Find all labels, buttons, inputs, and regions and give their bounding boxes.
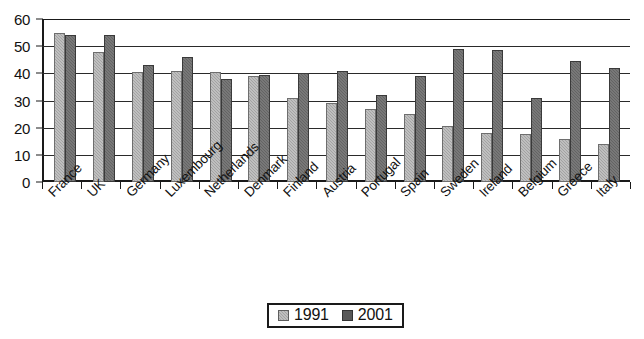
legend-swatch-1991-icon: [278, 310, 289, 321]
bar-groups: [42, 19, 630, 182]
bar-group: [434, 19, 473, 182]
bar[interactable]: [54, 33, 65, 182]
legend-label-2001: 2001: [358, 307, 393, 323]
bar[interactable]: [609, 68, 620, 182]
bar[interactable]: [365, 109, 376, 182]
x-tick-mark: [42, 182, 43, 189]
plot-area: [42, 19, 630, 182]
bar[interactable]: [248, 76, 259, 182]
y-tick-label: 20: [14, 120, 30, 135]
grouped-bar-chart: 0102030405060 FranceUKGermanyLuxembourgN…: [0, 0, 644, 339]
bar[interactable]: [104, 35, 115, 182]
bar[interactable]: [65, 35, 76, 182]
x-axis-labels: FranceUKGermanyLuxembourgNetherlandsDenm…: [42, 190, 642, 285]
bar[interactable]: [210, 72, 221, 182]
y-tick-label: 30: [14, 93, 30, 108]
y-tick-label: 50: [14, 39, 30, 54]
x-tick-mark: [356, 182, 357, 189]
bar-group: [85, 19, 124, 182]
x-tick-mark: [473, 182, 474, 189]
bar-group: [589, 19, 628, 182]
x-tick-mark: [591, 182, 592, 189]
x-tick-mark: [81, 182, 82, 189]
x-tick-mark: [199, 182, 200, 189]
x-tick-mark: [395, 182, 396, 189]
bar-group: [46, 19, 85, 182]
legend-swatch-2001-icon: [342, 310, 353, 321]
x-tick-mark: [316, 182, 317, 189]
bar-group: [473, 19, 512, 182]
x-tick-mark: [552, 182, 553, 189]
legend: 1991 2001: [267, 303, 404, 328]
x-tick-mark: [434, 182, 435, 189]
bar-group: [395, 19, 434, 182]
legend-label-1991: 1991: [294, 307, 329, 323]
y-tick-label: 60: [14, 12, 30, 27]
x-tick-mark: [120, 182, 121, 189]
legend-entry-1991[interactable]: 1991: [278, 307, 329, 323]
bar[interactable]: [132, 72, 143, 182]
x-tick-mark: [512, 182, 513, 189]
x-tick-mark: [238, 182, 239, 189]
bar-group: [318, 19, 357, 182]
y-tick-label: 0: [22, 175, 30, 190]
y-tick-label: 10: [14, 147, 30, 162]
x-tick-mark: [630, 182, 631, 189]
bar-group: [550, 19, 589, 182]
x-tick-mark: [160, 182, 161, 189]
y-tick-label: 40: [14, 66, 30, 81]
bar[interactable]: [326, 103, 337, 182]
bar[interactable]: [93, 52, 104, 182]
bar-group: [512, 19, 551, 182]
y-axis: 0102030405060: [0, 19, 38, 182]
legend-entry-2001[interactable]: 2001: [342, 307, 393, 323]
bar[interactable]: [287, 98, 298, 182]
x-tick-mark: [277, 182, 278, 189]
bar[interactable]: [171, 71, 182, 182]
